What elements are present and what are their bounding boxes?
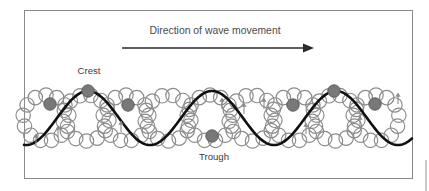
scan-edge-artifact xyxy=(425,160,427,191)
surface-particle-marker xyxy=(44,98,56,110)
diagram-title: Direction of wave movement xyxy=(149,25,280,36)
surface-particle-marker xyxy=(287,99,299,111)
orbit-particle-circle xyxy=(155,89,169,103)
orbit-particle-circle xyxy=(239,89,253,103)
trough-label: Trough xyxy=(199,151,229,162)
surface-particle-marker xyxy=(369,98,381,110)
orbit-particle-circle xyxy=(108,90,122,104)
crest-label: Crest xyxy=(78,65,101,76)
surface-particle-marker xyxy=(206,130,218,142)
wave-motion-diagram: Direction of wave movement Crest Trough xyxy=(0,0,429,191)
orbit-particle-circle xyxy=(28,90,42,104)
surface-particle-marker xyxy=(328,85,340,97)
surface-particle-marker xyxy=(82,85,94,97)
surface-particle-marker xyxy=(122,99,134,111)
wave-diagram-canvas: Direction of wave movement Crest Trough xyxy=(0,0,429,191)
